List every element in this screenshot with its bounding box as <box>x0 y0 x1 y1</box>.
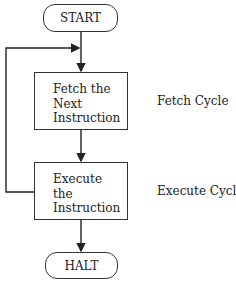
halt-label: HALT <box>64 259 98 273</box>
connector-lines <box>0 0 236 285</box>
start-node: START <box>43 4 118 32</box>
execute-node: Execute the Instruction <box>34 162 128 220</box>
start-label: START <box>60 11 101 25</box>
execute-line-3: Instruction <box>53 201 127 216</box>
flowchart-canvas: START Fetch the Next Instruction Fetch C… <box>0 0 236 285</box>
fetch-node: Fetch the Next Instruction <box>34 72 128 130</box>
fetch-line-1: Fetch the <box>53 82 127 97</box>
fetch-cycle-label: Fetch Cycle <box>157 94 228 108</box>
execute-line-2: the <box>53 187 127 202</box>
execute-cycle-label: Execute Cycle <box>157 184 236 198</box>
fetch-line-2: Next <box>53 97 127 112</box>
fetch-line-3: Instruction <box>53 111 127 126</box>
execute-line-1: Execute <box>53 172 127 187</box>
halt-node: HALT <box>45 252 118 279</box>
